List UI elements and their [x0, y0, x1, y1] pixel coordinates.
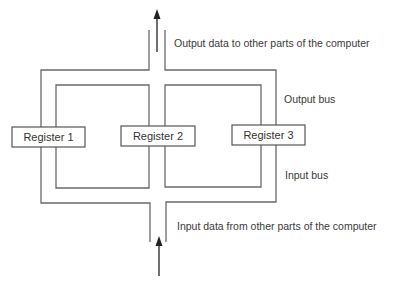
register-3: Register 3: [232, 125, 305, 145]
input-data-caption: Input data from other parts of the compu…: [177, 220, 377, 232]
output-arrow-icon: [154, 9, 161, 52]
register-3-label: Register 3: [243, 129, 293, 141]
register-bus-diagram: Register 1 Register 2 Register 3 Output …: [0, 0, 398, 288]
register-2: Register 2: [121, 126, 195, 146]
input-arrow-icon: [156, 236, 163, 276]
output-data-caption: Output data to other parts of the comput…: [174, 37, 370, 49]
register-1: Register 1: [12, 127, 85, 147]
input-bus-label: Input bus: [285, 169, 328, 181]
register-1-label: Register 1: [23, 131, 73, 143]
output-bus-label: Output bus: [284, 93, 335, 105]
register-2-label: Register 2: [133, 130, 183, 142]
